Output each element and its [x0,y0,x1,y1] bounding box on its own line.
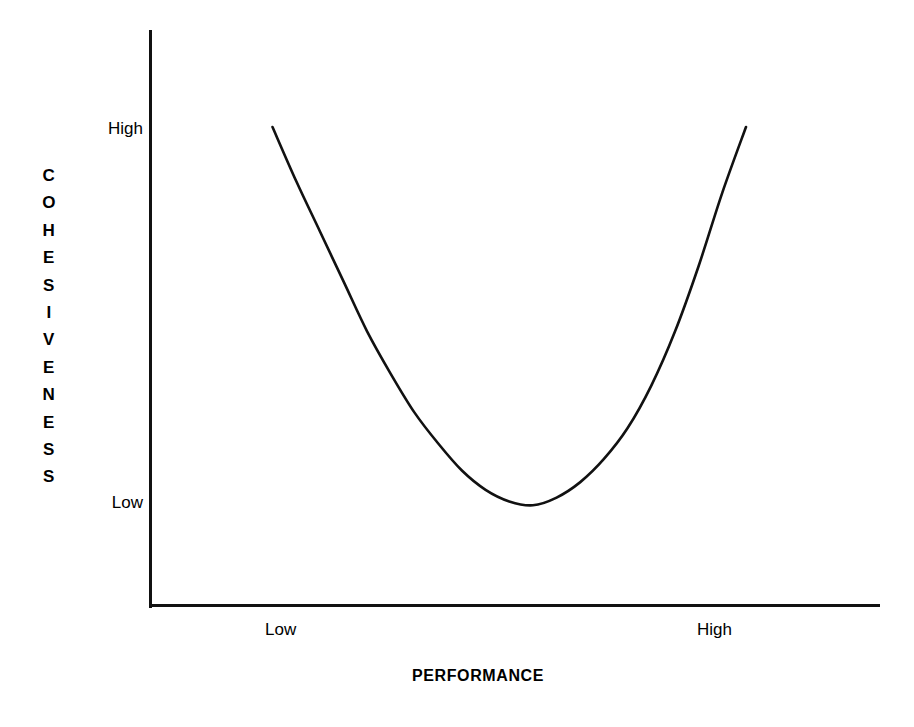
y-axis-line [149,30,152,608]
chart-figure: COHESIVENESS High Low Low High PERFORMAN… [0,0,914,727]
y-axis-title-letter: E [43,354,55,381]
x-axis-title: PERFORMANCE [0,667,914,685]
y-axis-title-letter: I [46,299,51,326]
x-axis-line [149,604,880,607]
y-axis-tick-label-low: Low [112,493,143,513]
x-axis-tick-label-high: High [697,620,732,640]
y-axis-title-letter: N [43,381,56,408]
y-axis-title-letter: S [43,436,55,463]
y-axis-title: COHESIVENESS [30,162,68,491]
plot-curve-area [0,0,914,727]
y-axis-title-letter: V [43,326,55,353]
y-axis-tick-label-high: High [108,119,143,139]
y-axis-title-letter: E [43,244,55,271]
cohesiveness-performance-curve [273,127,747,505]
x-axis-tick-label-low: Low [265,620,296,640]
y-axis-title-letter: S [43,272,55,299]
y-axis-title-letter: C [43,162,56,189]
y-axis-title-letter: S [43,463,55,490]
y-axis-title-letter: E [43,409,55,436]
y-axis-title-letter: O [42,189,56,216]
y-axis-title-letter: H [43,217,56,244]
